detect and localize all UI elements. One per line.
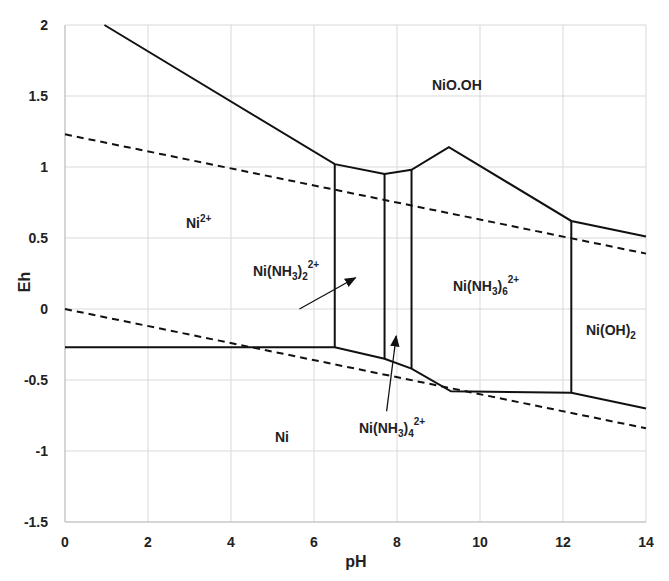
y-tick-label: -0.5 (24, 372, 48, 388)
region-label-ni2plus: Ni2+ (186, 213, 212, 231)
y-tick-label: 0.5 (29, 230, 49, 246)
region-label-ni-nh3-2: Ni(NH3)22+ (253, 259, 319, 282)
x-tick-label: 10 (472, 534, 488, 550)
y-tick-label: 0 (40, 301, 48, 317)
axis-ticks: 02468101214-1.5-1-0.500.511.52 (24, 17, 654, 550)
y-tick-label: 2 (40, 17, 48, 33)
region-label-ni-nh3-4: Ni(NH3)42+ (359, 416, 425, 439)
region-label-ni-nh3-6: Ni(NH3)62+ (453, 274, 519, 297)
water-stability-dashed-line (65, 309, 646, 428)
region-label-ni: Ni (275, 429, 289, 445)
x-tick-label: 12 (555, 534, 571, 550)
x-tick-label: 8 (393, 534, 401, 550)
gridlines (65, 25, 646, 522)
pourbaix-chart: 02468101214-1.5-1-0.500.511.52 pH Eh NiO… (0, 0, 669, 581)
x-tick-label: 0 (61, 534, 69, 550)
x-tick-label: 4 (227, 534, 235, 550)
x-tick-label: 6 (310, 534, 318, 550)
region-label-nio-oh: NiO.OH (432, 77, 482, 93)
water-stability-dashed-line (65, 134, 646, 253)
y-tick-label: -1 (36, 443, 49, 459)
x-axis-label: pH (345, 553, 366, 570)
series-line (104, 25, 646, 237)
y-tick-label: 1 (40, 159, 48, 175)
annotation-arrow (299, 278, 355, 309)
y-tick-label: -1.5 (24, 514, 48, 530)
data-series (65, 25, 646, 428)
x-tick-label: 2 (144, 534, 152, 550)
region-label-ni-oh-2: Ni(OH)2 (586, 322, 636, 341)
x-tick-label: 14 (638, 534, 654, 550)
y-tick-label: 1.5 (29, 88, 49, 104)
y-axis-label: Eh (16, 272, 33, 292)
annotation-arrow (387, 336, 397, 411)
series-line (65, 347, 646, 408)
